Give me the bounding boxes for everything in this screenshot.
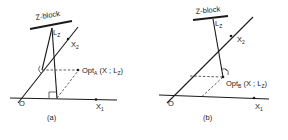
x1-axis (159, 95, 269, 99)
panel-b: Z-block LZ X2 X1 O OptB(X ; LZ) (b) (159, 4, 269, 122)
x2-point (230, 35, 233, 38)
z-block-label: Z-block (35, 9, 61, 22)
rod-left (42, 28, 52, 70)
opt-b-point (222, 76, 225, 79)
rod-label: LZ (53, 28, 60, 38)
x1-label: X1 (96, 102, 104, 112)
z-block-bar (30, 21, 72, 29)
opt-a-point (77, 69, 80, 72)
x2-label: X2 (237, 35, 245, 45)
x1-point (95, 98, 98, 101)
z-block-bar (193, 16, 228, 20)
x1-label: X1 (255, 102, 263, 112)
rod-label: LZ (215, 19, 222, 29)
panel-a: Z-block LZ X2 X1 O OptA(X ; LZ) (a) (10, 9, 123, 122)
origin-label: O (168, 99, 174, 108)
opt-a-label: OptA(X ; LZ) (82, 66, 123, 76)
z-block-label: Z-block (195, 4, 221, 16)
projection-diagonal (57, 71, 78, 98)
projection-horizontal (190, 76, 223, 77)
x1-point (253, 97, 256, 100)
caption-b: (b) (203, 113, 213, 122)
angle-arc (39, 66, 41, 73)
opt-b-label: OptB(X ; LZ) (226, 79, 267, 89)
x1-axis (10, 98, 117, 100)
rod-right (52, 28, 57, 99)
x2-label: X2 (71, 40, 79, 50)
x2-point (67, 38, 70, 41)
x2-axis (167, 17, 253, 103)
origin-label: O (19, 99, 25, 108)
caption-a: (a) (47, 113, 57, 122)
right-angle-mark (49, 92, 56, 98)
diagram-canvas: Z-block LZ X2 X1 O OptA(X ; LZ) (a) Z-bl… (0, 0, 288, 140)
projection-diagonal (202, 77, 223, 97)
